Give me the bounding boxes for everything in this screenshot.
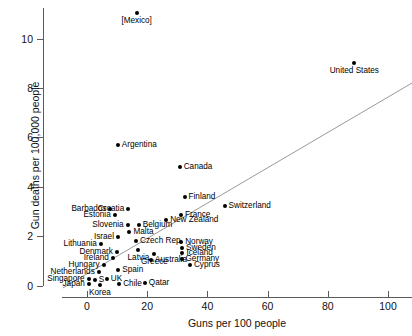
data-point bbox=[97, 270, 101, 274]
data-point bbox=[116, 143, 120, 147]
y-tick-label: 0 bbox=[0, 281, 33, 292]
x-tick-label: 0 bbox=[67, 301, 107, 312]
y-tick-mark bbox=[37, 286, 43, 287]
data-point bbox=[87, 277, 91, 281]
scatter-plot: 0246810020406080100 Gun deaths per 100,0… bbox=[0, 0, 412, 336]
x-tick-label: 80 bbox=[308, 301, 348, 312]
data-point bbox=[127, 230, 131, 234]
data-point-label: Czech Rep. bbox=[140, 236, 183, 244]
data-point bbox=[93, 278, 97, 282]
data-point bbox=[134, 239, 138, 243]
y-tick-mark bbox=[37, 39, 43, 40]
x-tick-mark bbox=[268, 291, 269, 297]
data-point-label: New Zealand bbox=[170, 216, 218, 224]
x-tick-label: 100 bbox=[368, 301, 408, 312]
data-point-label: Qatar bbox=[149, 279, 169, 287]
data-point-label: Cyprus bbox=[194, 261, 220, 269]
data-point-label: Australia bbox=[155, 256, 187, 264]
data-point bbox=[188, 263, 192, 267]
x-tick-mark bbox=[328, 291, 329, 297]
data-point-label: [Mexico] bbox=[121, 17, 151, 25]
data-point bbox=[116, 268, 120, 272]
data-point bbox=[223, 204, 227, 208]
data-point bbox=[180, 246, 184, 250]
data-point bbox=[87, 282, 91, 286]
data-point bbox=[113, 213, 117, 217]
data-point bbox=[126, 207, 130, 211]
y-axis-line bbox=[43, 8, 44, 286]
data-point bbox=[126, 223, 130, 227]
data-point-label: Israel bbox=[94, 232, 114, 240]
y-axis-title: Gun deaths per 100,000 people bbox=[30, 41, 41, 271]
x-tick-label: 20 bbox=[127, 301, 167, 312]
data-point bbox=[99, 242, 103, 246]
data-point-label: Switzerland bbox=[229, 202, 271, 210]
y-tick-label: 2 bbox=[0, 231, 33, 242]
data-point-label: Finland bbox=[189, 192, 216, 200]
x-tick-label: 60 bbox=[248, 301, 288, 312]
data-point-label: Chile bbox=[123, 279, 142, 287]
data-point-label: Slovenia bbox=[92, 221, 123, 229]
data-point bbox=[136, 248, 140, 252]
data-point bbox=[105, 277, 109, 281]
data-point bbox=[117, 282, 121, 286]
data-point bbox=[352, 61, 356, 65]
data-point bbox=[98, 283, 102, 287]
data-point bbox=[143, 281, 147, 285]
data-point bbox=[116, 235, 120, 239]
data-point bbox=[135, 11, 139, 15]
x-tick-mark bbox=[207, 291, 208, 297]
data-point bbox=[179, 240, 183, 244]
x-tick-label: 40 bbox=[187, 301, 227, 312]
x-tick-mark bbox=[388, 291, 389, 297]
data-point-label: United States bbox=[330, 67, 379, 75]
data-point bbox=[178, 165, 182, 169]
data-point-label: Japan bbox=[62, 280, 84, 288]
x-tick-mark bbox=[147, 291, 148, 297]
x-axis-line bbox=[62, 297, 412, 298]
data-point bbox=[183, 195, 187, 199]
x-axis-title: Guns per 100 people bbox=[62, 318, 412, 329]
data-point-label: Korea bbox=[89, 289, 111, 297]
data-point-label: Estonia bbox=[83, 211, 110, 219]
data-point-label: Spain bbox=[122, 266, 143, 274]
data-point-label: Canada bbox=[184, 163, 213, 171]
data-point bbox=[102, 263, 106, 267]
data-point-label: Argentina bbox=[122, 141, 157, 149]
y-tick-label: 10 bbox=[0, 34, 33, 45]
data-point bbox=[115, 250, 119, 254]
data-point bbox=[111, 256, 115, 260]
x-tick-mark bbox=[87, 291, 88, 297]
